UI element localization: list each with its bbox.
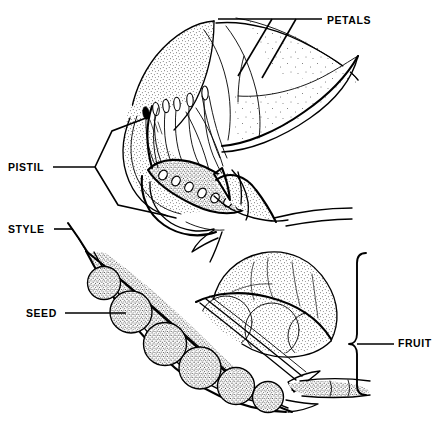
diagram-canvas: PETALS PISTIL STYLE SEED FRUIT (0, 0, 444, 433)
fruit-pedicel (284, 376, 379, 402)
label-pistil: PISTIL (8, 161, 44, 173)
leader-fruit-brace (349, 253, 394, 395)
label-seed: SEED (26, 307, 57, 319)
fruit-section (68, 223, 379, 413)
label-petals: PETALS (327, 14, 371, 26)
flower-section (110, 10, 370, 262)
label-style: STYLE (8, 223, 45, 235)
label-fruit: FRUIT (398, 337, 432, 349)
flower-pedicel (274, 208, 352, 226)
botanical-illustration: PETALS PISTIL STYLE SEED FRUIT (0, 0, 444, 433)
persistent-style (68, 223, 88, 253)
